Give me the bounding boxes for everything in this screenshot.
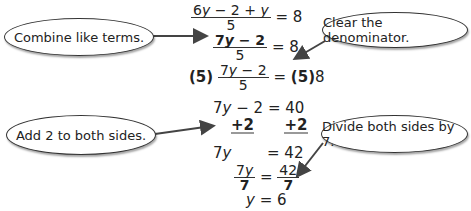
arrow-clear xyxy=(296,41,325,58)
callout-clear-denominator: Clear the denominator. xyxy=(322,12,468,48)
equation-step-2: 7y − 25 = 8 xyxy=(213,33,299,62)
callout-text: Divide both sides by 7. xyxy=(322,119,467,149)
callout-divide-7: Divide both sides by 7. xyxy=(321,115,468,153)
callout-text: Combine like terms. xyxy=(14,30,144,45)
equation-step-1: 6y − 2 + y5 = 8 xyxy=(191,3,302,32)
equation-step-6: 7y = 42 xyxy=(213,146,303,161)
equation-step-4: 7y − 2 = 40 xyxy=(213,101,304,116)
equation-step-7: 7y7 = 427 xyxy=(234,163,299,192)
equation-step-3: (5) 7y − 25 = (5)8 xyxy=(189,63,325,92)
equation-step-5: +2 +2 xyxy=(231,118,308,134)
equation-step-8: y = 6 xyxy=(246,193,287,208)
callout-text: Add 2 to both sides. xyxy=(16,128,146,143)
callout-text: Clear the denominator. xyxy=(323,15,467,45)
callout-add-2: Add 2 to both sides. xyxy=(6,115,156,155)
callout-combine-like-terms: Combine like terms. xyxy=(4,18,154,56)
arrow-add xyxy=(155,126,212,134)
